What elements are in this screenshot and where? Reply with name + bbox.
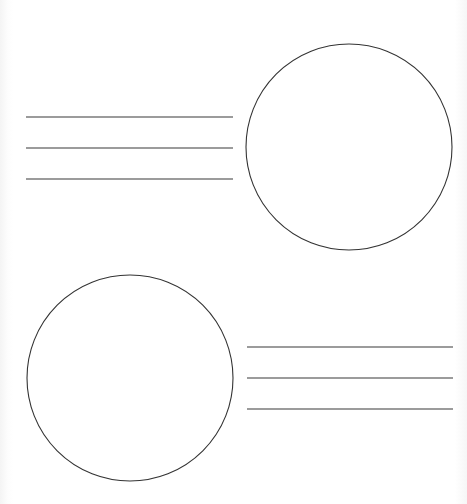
worksheet-canvas <box>0 0 467 504</box>
drawing-circle <box>27 275 233 481</box>
worksheet-page <box>0 0 467 504</box>
block-top <box>26 44 452 250</box>
block-bottom <box>27 275 453 481</box>
drawing-circle <box>246 44 452 250</box>
